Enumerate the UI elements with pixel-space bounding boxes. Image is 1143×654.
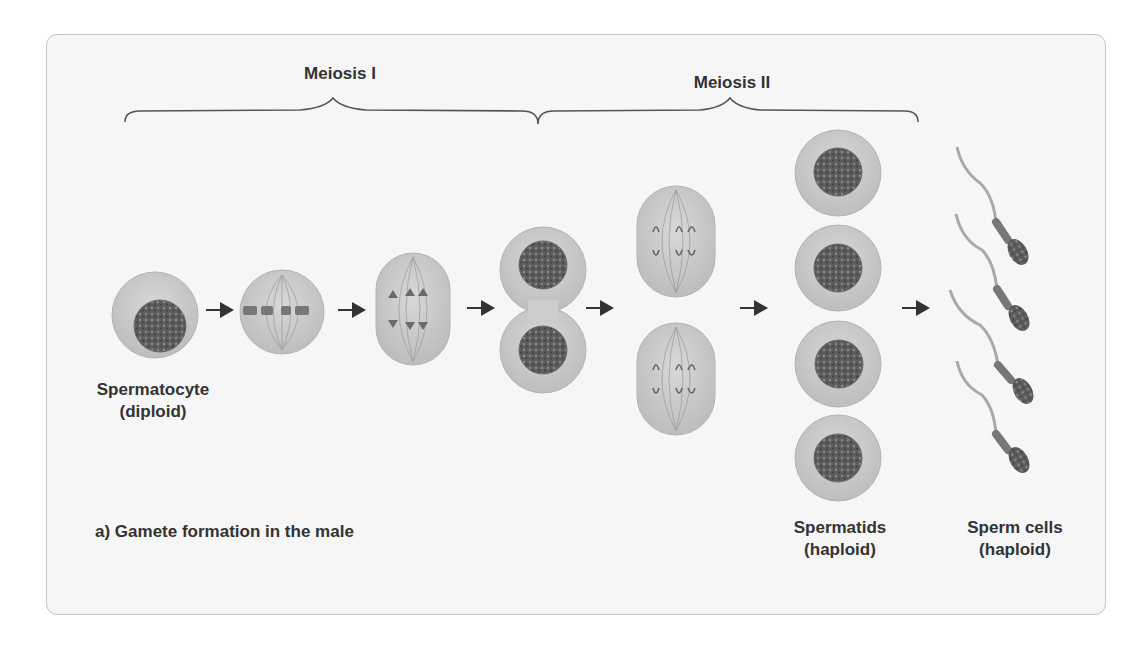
spermatid-cells: [795, 130, 881, 501]
stage-ploidy: (diploid): [78, 401, 228, 423]
phase-label-meiosis-2: Meiosis II: [680, 72, 784, 94]
stage-name: Spermatids: [785, 517, 895, 539]
stage-label-sperm-cells: Sperm cells (haploid): [950, 517, 1080, 561]
stage-label-spermatids: Spermatids (haploid): [785, 517, 895, 561]
phase-label-meiosis-1: Meiosis I: [290, 63, 390, 85]
brace-meiosis-1: [125, 98, 554, 124]
figure-caption: a) Gamete formation in the male: [95, 521, 354, 543]
stage-name: Spermatocyte: [78, 379, 228, 401]
meiosis-2-cell-top: [637, 186, 715, 297]
spermatocyte-cell: [112, 272, 198, 358]
stage-ploidy: (haploid): [785, 539, 895, 561]
stage-name: Sperm cells: [950, 517, 1080, 539]
stage-ploidy: (haploid): [950, 539, 1080, 561]
sperm-cells: [950, 147, 1038, 477]
stage-label-spermatocyte: Spermatocyte (diploid): [78, 379, 228, 423]
dividing-cell: [500, 227, 586, 393]
anaphase-1-cell: [376, 253, 450, 365]
sperm-3: [950, 290, 1038, 408]
meiosis-2-cell-bottom: [637, 323, 715, 435]
sperm-4: [957, 361, 1034, 477]
brace-meiosis-2: [554, 98, 918, 122]
metaphase-1-cell: [240, 270, 324, 354]
sperm-1: [957, 147, 1033, 269]
